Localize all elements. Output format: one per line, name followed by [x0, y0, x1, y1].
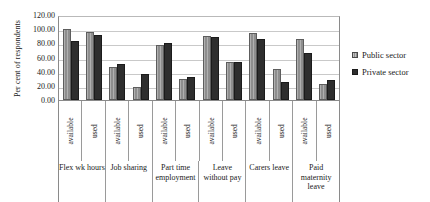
x-axis-sublabel: available: [66, 117, 75, 144]
y-axis-tick-labels: 120.00100.0080.0060.0040.0020.000.00: [14, 12, 55, 106]
x-axis-sublabel-cell: used: [270, 101, 293, 161]
bar: [86, 32, 94, 100]
x-axis-sublabels: availableusedavailableusedavailableuseda…: [58, 101, 340, 161]
legend-item[interactable]: Public sector: [352, 50, 409, 60]
x-axis-category-labels: Flex wk hoursJob sharingPart time employ…: [58, 161, 340, 202]
bar-group: [316, 17, 339, 100]
bar: [257, 39, 265, 100]
bar: [164, 43, 172, 100]
y-axis-tick: 60.00: [14, 55, 55, 63]
bar: [304, 53, 312, 100]
x-axis-sublabel: available: [159, 117, 168, 144]
y-axis-tick: 0.00: [14, 97, 55, 105]
bar: [226, 62, 234, 100]
legend-swatch-icon: [352, 52, 358, 58]
bar-chart: Per cent of respondents 120.00100.0080.0…: [0, 0, 430, 202]
bar-group: [292, 17, 315, 100]
y-axis-tick: 80.00: [14, 40, 55, 48]
x-axis-sublabel-cell: used: [129, 101, 152, 161]
bar: [109, 67, 117, 100]
bar: [156, 45, 164, 100]
bar-groups: [59, 17, 339, 100]
bar-group: [199, 17, 222, 100]
bar: [141, 74, 149, 100]
legend-label: Public sector: [362, 50, 406, 60]
x-axis-sublabel: used: [323, 124, 332, 138]
x-axis-sublabel-cell: available: [293, 101, 316, 161]
bar-group: [129, 17, 152, 100]
plot-area: [58, 16, 340, 101]
x-axis-category-label: Part time employment: [153, 161, 200, 202]
x-axis-sublabel: used: [230, 124, 239, 138]
bar: [133, 87, 141, 100]
bar-group: [246, 17, 269, 100]
y-axis-tick: 120.00: [14, 12, 55, 20]
x-axis-category-label: Job sharing: [106, 161, 153, 202]
x-axis-sublabel-cell: available: [59, 101, 82, 161]
bar: [63, 29, 71, 100]
x-axis-sublabel: available: [253, 117, 262, 144]
x-axis-category-label: Flex wk hours: [59, 161, 106, 202]
y-axis-tick: 40.00: [14, 69, 55, 77]
bar: [281, 82, 289, 100]
legend-label: Private sector: [362, 67, 409, 77]
legend-item[interactable]: Private sector: [352, 67, 409, 77]
x-axis-sublabel: available: [300, 117, 309, 144]
bar: [187, 77, 195, 100]
x-axis-sublabel: available: [206, 117, 215, 144]
bar-group: [176, 17, 199, 100]
x-axis-sublabel-cell: used: [82, 101, 105, 161]
legend-swatch-icon: [352, 69, 358, 75]
x-axis-sublabel-cell: used: [176, 101, 199, 161]
bar: [94, 35, 102, 100]
x-axis-category-label: Carers leave: [246, 161, 293, 202]
bar: [327, 80, 335, 100]
bar: [203, 36, 211, 100]
x-axis-sublabel-cell: available: [106, 101, 129, 161]
x-axis-sublabel: used: [136, 124, 145, 138]
y-axis-tick: 100.00: [14, 26, 55, 34]
x-axis-sublabel: available: [113, 117, 122, 144]
x-axis-sublabel-cell: available: [246, 101, 269, 161]
x-axis-sublabel-cell: available: [153, 101, 176, 161]
bar: [319, 84, 327, 100]
x-axis-category-label: Paid maternity leave: [293, 161, 339, 202]
bar: [117, 64, 125, 100]
legend: Public sectorPrivate sector: [352, 50, 409, 84]
y-axis-tick: 20.00: [14, 83, 55, 91]
x-axis-sublabel: used: [277, 124, 286, 138]
x-axis-sublabel: used: [183, 124, 192, 138]
bar-group: [59, 17, 82, 100]
bar-group: [82, 17, 105, 100]
bar: [234, 62, 242, 100]
bar: [179, 79, 187, 100]
bar: [296, 39, 304, 100]
x-axis-category-label: Leave without pay: [199, 161, 246, 202]
x-axis-sublabel-cell: used: [223, 101, 246, 161]
bar-group: [269, 17, 292, 100]
x-axis-sublabel-cell: used: [317, 101, 339, 161]
bar-group: [106, 17, 129, 100]
bar: [71, 41, 79, 101]
bar-group: [152, 17, 175, 100]
bar-group: [222, 17, 245, 100]
bar: [273, 69, 281, 100]
bar: [249, 33, 257, 100]
x-axis-sublabel: used: [89, 124, 98, 138]
x-axis-sublabel-cell: available: [200, 101, 223, 161]
bar: [211, 37, 219, 100]
